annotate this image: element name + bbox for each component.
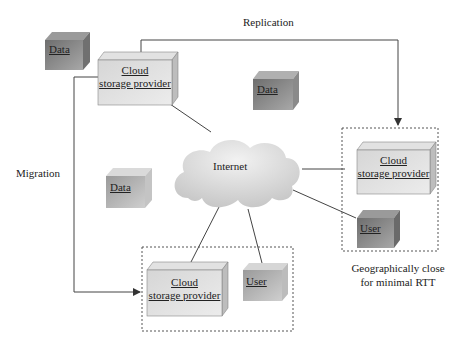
cloud-right-line2: storage provider xyxy=(357,167,430,180)
data-top-mid-label: Data xyxy=(257,83,278,96)
cloud-bottom-label: Cloud storage provider xyxy=(147,276,222,302)
geo-note-line1: Geographically close xyxy=(350,262,446,274)
migration-label: Migration xyxy=(16,167,60,179)
internet-label: Internet xyxy=(213,160,247,172)
data-top-left-label: Data xyxy=(49,43,70,56)
cloud-right-label: Cloud storage provider xyxy=(357,154,430,180)
user-bottom-label: User xyxy=(246,275,267,288)
replication-label: Replication xyxy=(243,16,294,28)
geo-note-line2: for minimal RTT xyxy=(350,276,446,288)
cloud-right-line1: Cloud xyxy=(357,154,430,167)
cloud-bottom-line1: Cloud xyxy=(147,276,222,289)
cloud-bottom-line2: storage provider xyxy=(147,289,222,302)
user-right-label: User xyxy=(360,222,381,235)
data-mid-left-label: Data xyxy=(110,181,131,194)
cloud-top-label: Cloud storage provider xyxy=(98,64,172,90)
internet-cloud-icon xyxy=(175,140,300,207)
cloud-top-line2: storage provider xyxy=(98,77,172,90)
cloud-top-line1: Cloud xyxy=(98,64,172,77)
